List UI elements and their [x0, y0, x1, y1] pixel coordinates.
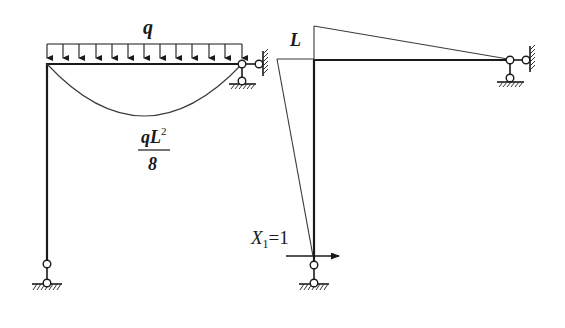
moment-denominator: 8: [148, 154, 157, 174]
hinge: [506, 74, 514, 82]
unit-load-label: X1=1: [250, 227, 289, 251]
hinge: [43, 279, 51, 287]
structural-diagram: q qL2 8: [0, 0, 565, 328]
load-label-q: q: [143, 16, 153, 39]
svg-text:qL2: qL2: [141, 125, 167, 147]
hinge: [255, 60, 263, 68]
hinge: [310, 279, 318, 287]
moment-label: qL2 8: [138, 125, 170, 174]
hinge: [238, 77, 246, 85]
moment-exponent: 2: [161, 125, 167, 137]
hinge: [43, 260, 51, 268]
hinge: [522, 56, 530, 64]
hinge: [310, 261, 318, 269]
left-frame-right-support: [229, 49, 268, 89]
distributed-load: [47, 44, 242, 58]
right-frame-bottom-support: [299, 261, 329, 290]
right-frame: L X1=1: [250, 26, 535, 290]
unit-load-value: =1: [269, 227, 289, 248]
hinge: [238, 60, 246, 68]
left-frame: q qL2 8: [32, 16, 268, 290]
right-frame-right-support: [497, 45, 535, 87]
hinge: [506, 56, 514, 64]
left-frame-bottom-support: [32, 260, 62, 290]
dimension-label-L: L: [289, 30, 301, 50]
moment-parabola: [47, 64, 242, 116]
moment-numerator: qL: [141, 127, 161, 147]
